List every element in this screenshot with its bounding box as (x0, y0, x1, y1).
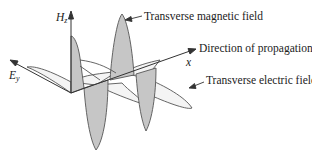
x-axis-label: x (186, 57, 191, 69)
magnetic-lobe-4 (136, 68, 156, 131)
electric-field-label: Transverse electric field (206, 75, 312, 87)
magnetic-field-label: Transverse magnetic field (144, 11, 263, 23)
ey-axis-label: Ey (9, 70, 20, 83)
hz-arrowhead (69, 11, 74, 19)
ey-arrowhead (10, 60, 18, 66)
magnetic-lobe-3 (110, 14, 134, 80)
electric-field-lobes (27, 60, 192, 108)
hz-axis-label: Hz (56, 12, 67, 25)
magnetic-lobe-2 (84, 80, 108, 150)
magnetic-lobe-1 (71, 36, 84, 93)
x-arrowhead (188, 49, 196, 55)
propagation-label: Direction of propagation (199, 43, 312, 55)
